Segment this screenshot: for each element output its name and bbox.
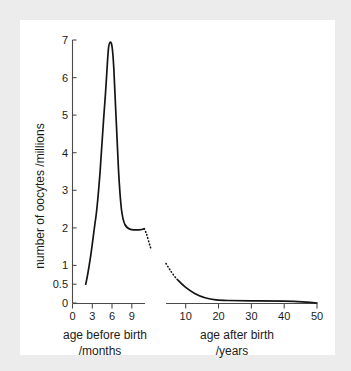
x-tick-label-10: 10 bbox=[180, 310, 192, 322]
y-axis: 7 6 5 4 3 2 1 0.5 0 number of oocytes /m… bbox=[33, 34, 77, 309]
x-tick-label-40: 40 bbox=[278, 310, 290, 322]
x-tick-marks-before-birth bbox=[73, 304, 132, 309]
x-tick-label-20: 20 bbox=[212, 310, 224, 322]
y-tick-label-2: 2 bbox=[62, 222, 68, 234]
y-axis-title: number of oocytes /millions bbox=[33, 123, 47, 268]
panel-before-birth: 0 3 6 9 age before birth /months bbox=[63, 42, 151, 358]
curve-after-birth-transition-dotted bbox=[166, 264, 178, 281]
panel-after-birth: 10 20 30 40 50 age after birth /years bbox=[166, 264, 323, 359]
x-tick-label-0: 0 bbox=[69, 310, 75, 322]
oocyte-count-chart: 7 6 5 4 3 2 1 0.5 0 number of oocytes /m… bbox=[0, 0, 351, 371]
x-axis-title-after-birth-line2: /years bbox=[216, 344, 249, 358]
curve-before-birth bbox=[86, 42, 144, 284]
curve-after-birth bbox=[178, 280, 317, 303]
y-tick-label-7: 7 bbox=[62, 34, 68, 46]
x-tick-label-9: 9 bbox=[129, 310, 135, 322]
y-tick-label-4: 4 bbox=[62, 147, 68, 159]
x-tick-marks-after-birth bbox=[186, 304, 317, 309]
x-tick-label-3: 3 bbox=[89, 310, 95, 322]
y-tick-label-5: 5 bbox=[62, 109, 68, 121]
curve-before-birth-transition-dotted bbox=[144, 229, 151, 250]
x-tick-label-50: 50 bbox=[311, 310, 323, 322]
y-tick-label-6: 6 bbox=[62, 72, 68, 84]
x-axis-title-before-birth-line1: age before birth bbox=[63, 328, 147, 342]
y-tick-label-1: 1 bbox=[62, 259, 68, 271]
x-tick-label-30: 30 bbox=[245, 310, 257, 322]
figure-root: 7 6 5 4 3 2 1 0.5 0 number of oocytes /m… bbox=[0, 0, 351, 371]
x-tick-label-6: 6 bbox=[109, 310, 115, 322]
y-tick-label-0: 0 bbox=[62, 297, 68, 309]
x-axis-title-after-birth-line1: age after birth bbox=[200, 328, 274, 342]
y-tick-marks bbox=[73, 40, 77, 303]
y-tick-label-0-5: 0.5 bbox=[53, 278, 68, 290]
y-tick-label-3: 3 bbox=[62, 184, 68, 196]
x-axis-title-before-birth-line2: /months bbox=[79, 344, 122, 358]
